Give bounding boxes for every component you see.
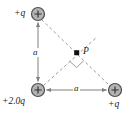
charge-top-left (32, 8, 45, 21)
charge-label-bottom-left: +2.0q (2, 97, 25, 107)
distance-label-vertical: a (32, 48, 39, 57)
physics-diagram: +q +2.0q +q a a P (0, 0, 128, 113)
point-label-p: P (83, 47, 89, 57)
charge-label-bottom-right: +q (108, 100, 119, 110)
distance-label-horizontal: a (73, 84, 80, 93)
charge-bottom-right (109, 84, 122, 97)
right-angle-marker (70, 61, 84, 68)
point-p-marker (74, 50, 79, 55)
charge-label-top-left: +q (14, 9, 25, 19)
charge-bottom-left (32, 84, 45, 97)
